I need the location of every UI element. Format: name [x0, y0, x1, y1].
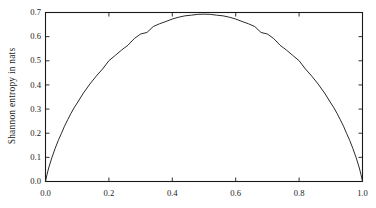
plot-area [0, 0, 376, 208]
chart-figure: Shannon entropy in nats 0.00.10.20.30.40… [0, 0, 376, 208]
data-series-line [46, 14, 363, 181]
series-binary-entropy [46, 14, 363, 181]
axes-frame [46, 13, 363, 182]
axes-frame-rect [46, 13, 363, 182]
axis-ticks [46, 13, 363, 182]
